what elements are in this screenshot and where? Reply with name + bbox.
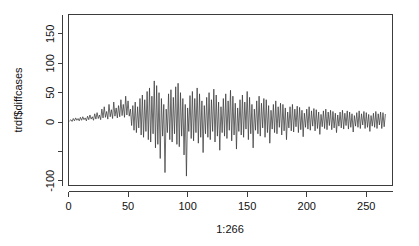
x-tick-label: 50: [122, 200, 134, 212]
r-plot-figure: -100050100150 trdf$diffcases 05010015020…: [0, 0, 419, 246]
y-tick-label: 100: [44, 54, 56, 72]
x-tick-label: 250: [357, 200, 375, 212]
y-axis-ticks: [58, 34, 63, 181]
y-axis-title: trdf$diffcases: [12, 67, 24, 133]
chart-canvas: -100050100150 trdf$diffcases 05010015020…: [0, 0, 419, 246]
series-line-diffcases: [70, 81, 386, 176]
x-axis-tick-labels: 050100150200250: [65, 200, 375, 212]
y-tick-label: 150: [44, 25, 56, 43]
x-axis-title: 1:266: [216, 223, 244, 235]
x-axis-ticks: [69, 192, 367, 197]
y-axis: -100050100150 trdf$diffcases: [12, 15, 63, 192]
x-tick-label: 0: [65, 200, 71, 212]
x-axis: 050100150200250 1:266: [65, 192, 392, 236]
y-axis-tick-labels: -100050100150: [44, 25, 56, 192]
y-tick-label: 0: [44, 119, 56, 125]
y-tick-label: -100: [44, 170, 56, 192]
x-tick-label: 150: [238, 200, 256, 212]
x-tick-label: 100: [178, 200, 196, 212]
x-tick-label: 200: [298, 200, 316, 212]
y-tick-label: 50: [44, 87, 56, 99]
